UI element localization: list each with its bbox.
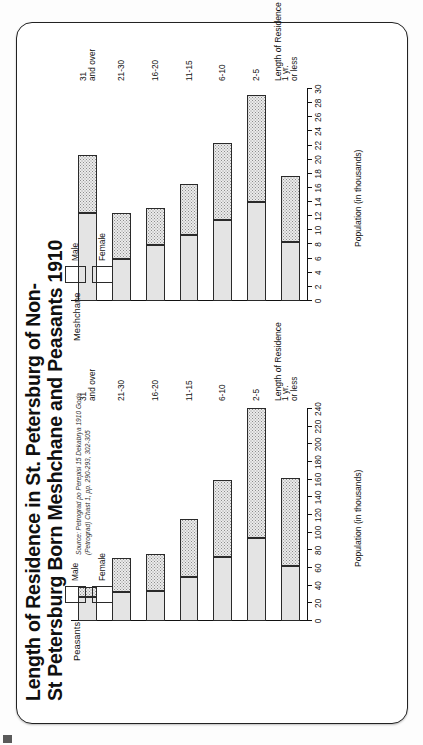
category-label-line: 2-5	[252, 355, 261, 401]
category-label-line: 11-15	[185, 355, 194, 401]
category-label: 1 yr.or less	[281, 35, 300, 81]
category-label: 16-20	[151, 355, 160, 401]
page-title: Length of Residence in St. Petersburg of…	[23, 201, 67, 701]
legend-swatch-male	[65, 586, 86, 603]
bar-segment-male	[213, 143, 232, 220]
bar-group	[281, 89, 300, 301]
category-label: 11-15	[185, 355, 194, 401]
bar-segment-female	[281, 242, 300, 301]
category-label: 21-30	[117, 355, 126, 401]
value-axis-line	[307, 409, 308, 621]
legend-swatch-female	[92, 586, 113, 603]
legend-label-female: Female	[97, 233, 107, 261]
category-label-line: or less	[290, 355, 299, 401]
chart-meshchane: 024681012141618202224262830Population (i…	[65, 47, 395, 347]
value-axis-tick	[307, 243, 312, 244]
value-axis-line	[307, 89, 308, 301]
category-label: 2-5	[252, 35, 261, 81]
bar-group	[180, 89, 199, 301]
bar-segment-male	[146, 554, 165, 591]
value-axis-tick	[307, 229, 312, 230]
value-axis-tick	[307, 514, 312, 515]
category-label: 2-5	[252, 355, 261, 401]
value-axis-tick	[307, 187, 312, 188]
page-title-line-1: Length of Residence in St. Petersburg of…	[23, 201, 45, 701]
scan-corner-mark	[3, 735, 12, 743]
bar-segment-female	[180, 577, 199, 621]
bar-group	[281, 409, 300, 621]
legend-swatch-female	[92, 266, 113, 283]
category-label-line: 21-30	[117, 35, 126, 81]
category-label: 31and over	[79, 35, 98, 81]
bar-segment-female	[213, 220, 232, 301]
bar-segment-female	[180, 235, 199, 301]
chart-legend: MaleFemale	[65, 513, 125, 603]
bar-segment-female	[247, 202, 266, 301]
value-axis-tick	[307, 116, 312, 117]
value-axis-title: Population (in thousands)	[353, 470, 363, 567]
bar-segment-male	[146, 208, 165, 245]
value-axis-tick	[307, 88, 312, 89]
chart-group-title: Peasants	[71, 622, 82, 661]
value-axis-tick	[307, 300, 312, 301]
value-axis-tick	[307, 286, 312, 287]
category-label-line: 6-10	[218, 35, 227, 81]
value-axis-title: Population (in thousands)	[353, 150, 363, 247]
value-axis-tick	[307, 549, 312, 550]
chart-group-title: Meshchane	[71, 293, 82, 341]
poster-sheet: Length of Residence in St. Petersburg of…	[16, 22, 408, 724]
category-label-line: or less	[290, 35, 299, 81]
bar-segment-female	[247, 538, 266, 621]
value-axis-tick	[307, 215, 312, 216]
value-axis-tick	[307, 201, 312, 202]
category-label-line: and over	[88, 35, 97, 81]
value-axis-tick	[307, 443, 312, 444]
category-label: 16-20	[151, 35, 160, 81]
legend-swatch-male	[65, 266, 86, 283]
value-axis-tick-label: 30	[313, 73, 323, 105]
value-axis-tick-label: 240	[313, 393, 323, 425]
category-label: 11-15	[185, 35, 194, 81]
legend-label-male: Male	[70, 243, 80, 261]
bar-segment-male	[180, 519, 199, 576]
value-axis-tick	[307, 130, 312, 131]
bar-segment-male	[281, 176, 300, 242]
value-axis-tick	[307, 567, 312, 568]
value-axis-tick	[307, 258, 312, 259]
category-label: 6-10	[218, 355, 227, 401]
category-label-line: 11-15	[185, 35, 194, 81]
bar-group	[247, 409, 266, 621]
bar-group	[146, 89, 165, 301]
category-label: 1 yr.or less	[281, 355, 300, 401]
source-note: Source: Petrograd po Perepisi 15 Dekabry…	[75, 393, 93, 555]
category-label-line: 6-10	[218, 355, 227, 401]
value-axis-tick	[307, 620, 312, 621]
value-axis-tick	[307, 602, 312, 603]
bar-group	[247, 89, 266, 301]
legend-label-female: Female	[97, 553, 107, 581]
category-label-line: 16-20	[151, 35, 160, 81]
bar-segment-female	[146, 591, 165, 621]
value-axis-tick	[307, 272, 312, 273]
value-axis-tick	[307, 585, 312, 586]
source-note-line-2: (Petrograd) Chast 1, pp. 290-293, 302-30…	[84, 393, 93, 555]
bar-segment-male	[247, 95, 266, 202]
bar-segment-male	[180, 184, 199, 235]
category-label-line: 2-5	[252, 35, 261, 81]
scanned-page: Length of Residence in St. Petersburg of…	[0, 0, 423, 745]
category-label-line: 21-30	[117, 355, 126, 401]
chart-legend: MaleFemale	[65, 193, 125, 283]
bar-group	[180, 409, 199, 621]
legend-label-male: Male	[70, 563, 80, 581]
value-axis-tick	[307, 145, 312, 146]
rotated-chart-stage: Length of Residence in St. Petersburg of…	[17, 23, 407, 723]
category-label: 21-30	[117, 35, 126, 81]
category-label: 6-10	[218, 35, 227, 81]
bar-segment-male	[213, 480, 232, 558]
bar-segment-male	[247, 408, 266, 538]
bar-segment-male	[281, 478, 300, 566]
value-axis-tick	[307, 408, 312, 409]
value-axis-tick	[307, 461, 312, 462]
value-axis-tick	[307, 496, 312, 497]
value-axis-tick	[307, 479, 312, 480]
